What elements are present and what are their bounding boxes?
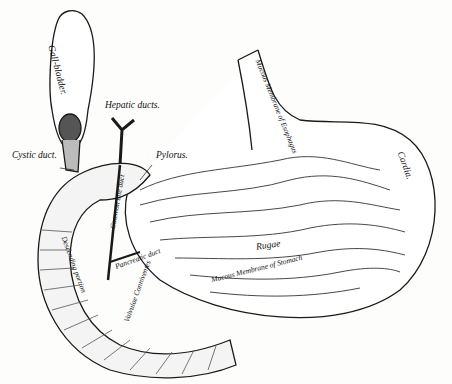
esophagus-shape [125, 50, 435, 318]
label-pylorus: Pylorus. [156, 150, 188, 160]
anatomy-figure: Gall-bladder. Hepatic ducts. Cystic duct… [0, 0, 452, 384]
label-hepatic-ducts: Hepatic ducts. [105, 100, 160, 110]
illustration-drawing [0, 0, 452, 384]
label-cystic-duct: Cystic duct. [12, 150, 57, 160]
